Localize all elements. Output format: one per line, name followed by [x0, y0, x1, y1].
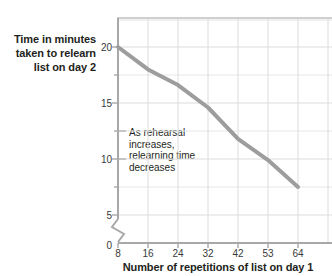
plot-gridlines [118, 18, 332, 243]
chart-plot-svg [0, 0, 332, 276]
chart-figure: Time in minutes taken to relearn list on… [0, 0, 332, 276]
y-axis-break-zigzag [112, 219, 124, 242]
annotation-leader-line [118, 131, 126, 159]
